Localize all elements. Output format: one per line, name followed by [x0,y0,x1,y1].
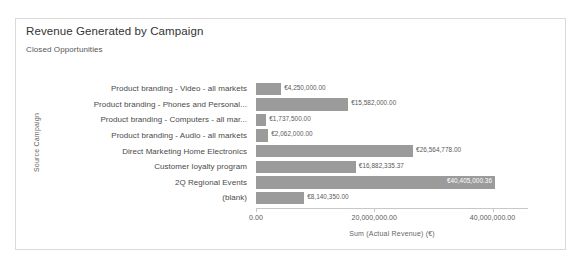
plot-area: Source Campaign Product branding - Video… [16,19,567,251]
bar-value-label: €15,582,000.00 [351,99,396,106]
bar-row[interactable]: €8,140,350.00 [256,190,526,206]
category-label: Product branding - Computers - all mar..… [100,115,247,124]
x-axis-title: Sum (Actual Revenue) (€) [256,230,528,237]
y-axis-title: Source Campaign [33,103,40,183]
category-label-row: Product branding - Computers - all mar..… [46,112,251,128]
bar[interactable] [256,98,348,110]
bar-value-label: €1,737,500.00 [269,115,311,122]
category-label: Product branding - Video - all markets [111,84,247,93]
category-label-row: Product branding - Audio - all markets [46,128,251,144]
bar-value-label: €8,140,350.00 [307,193,349,200]
category-label-row: Product branding - Phones and Personal..… [46,97,251,113]
y-axis-category-labels: Product branding - Video - all marketsPr… [46,81,251,206]
bars-region: €4,250,000.00€15,582,000.00€1,737,500.00… [256,81,526,206]
category-label: Product branding - Audio - all markets [111,131,247,140]
bar[interactable] [256,114,266,126]
category-label: Customer loyalty program [154,162,247,171]
bar[interactable] [256,161,356,173]
bar-row[interactable]: €26,564,778.00 [256,143,526,159]
screenshot-root: Revenue Generated by Campaign Closed Opp… [0,0,582,269]
chart-visual-card[interactable]: Revenue Generated by Campaign Closed Opp… [15,18,566,250]
bar-value-label: €40,405,000.36 [447,177,492,184]
bar-row[interactable]: €15,582,000.00 [256,97,526,113]
x-axis-tick-mark [374,208,375,212]
bar-row[interactable]: €4,250,000.00 [256,81,526,97]
x-axis-tick-label: 40,000,000.00 [470,214,515,221]
category-label: 2Q Regional Events [175,178,247,187]
category-label: Product branding - Phones and Personal..… [94,100,247,109]
bar[interactable] [256,145,413,157]
bar-value-label: €16,882,335.37 [359,162,404,169]
category-label: Direct Marketing Home Electronics [122,147,247,156]
x-axis-tick-label: 0.00 [249,214,263,221]
bar-row[interactable]: €1,737,500.00 [256,112,526,128]
x-axis-tick-mark [256,208,257,212]
x-axis-tick-mark [493,208,494,212]
bar[interactable] [256,83,281,95]
bar-value-label: €4,250,000.00 [284,84,326,91]
bar-row[interactable]: €2,062,000.00 [256,128,526,144]
bar[interactable] [256,129,268,141]
bar-value-label: €2,062,000.00 [271,130,313,137]
x-axis-tick-label: 20,000,000.00 [352,214,397,221]
category-label: (blank) [222,193,247,202]
bar-row[interactable]: €40,405,000.36 [256,175,526,191]
bar-value-label: €26,564,778.00 [416,146,461,153]
bar-row[interactable]: €16,882,335.37 [256,159,526,175]
category-label-row: (blank) [46,190,251,206]
category-label-row: Direct Marketing Home Electronics [46,143,251,159]
x-axis-line [256,208,528,209]
bar[interactable] [256,192,304,204]
category-label-row: 2Q Regional Events [46,175,251,191]
category-label-row: Product branding - Video - all markets [46,81,251,97]
category-label-row: Customer loyalty program [46,159,251,175]
